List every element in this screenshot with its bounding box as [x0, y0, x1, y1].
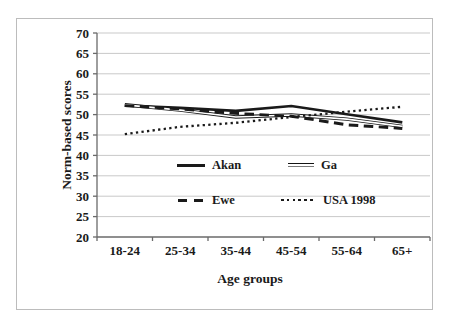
legend-item-ewe: Ewe — [178, 192, 235, 208]
legend-swatch-akan — [177, 164, 205, 167]
x-axis-title: Age groups — [85, 271, 415, 287]
legend-label-usa-1998: USA 1998 — [323, 193, 375, 208]
x-tick-label: 35-44 — [221, 243, 252, 258]
legend-swatch-usa-1998 — [281, 199, 316, 202]
legend-swatch-ewe — [178, 199, 205, 202]
x-tick-label: 65+ — [392, 243, 412, 258]
legend-item-akan: Akan — [177, 157, 241, 173]
legend-label-ewe: Ewe — [212, 193, 235, 208]
legend-item-ga: Ga — [288, 157, 337, 173]
legend-label-akan: Akan — [212, 158, 241, 173]
legend-swatch-ga — [288, 163, 314, 167]
chart-figure: 202530354045505560657018-2425-3435-4445-… — [0, 0, 450, 326]
y-axis-title: Norm-based scores — [56, 33, 78, 237]
y-tick-label: 65 — [76, 46, 90, 61]
x-tick-label: 45-54 — [276, 243, 307, 258]
y-tick-label: 55 — [76, 87, 90, 102]
x-tick-label: 25-34 — [165, 243, 196, 258]
x-tick-label: 18-24 — [110, 243, 141, 258]
y-tick-label: 45 — [76, 128, 90, 143]
legend-label-ga: Ga — [321, 158, 337, 173]
legend-item-usa-1998: USA 1998 — [281, 192, 375, 208]
y-tick-label: 35 — [76, 168, 90, 183]
y-tick-label: 25 — [76, 209, 90, 224]
x-tick-label: 55-64 — [332, 243, 363, 258]
